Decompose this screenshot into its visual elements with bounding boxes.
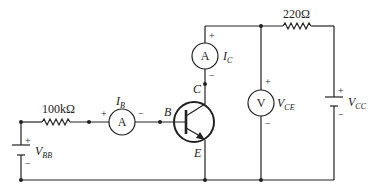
collector-resistor: 220Ω <box>283 7 312 29</box>
emitter-label: E <box>193 146 202 160</box>
ic-ammeter: A + − IC <box>192 30 233 81</box>
ib-label: IB <box>115 94 125 110</box>
ic-plus: + <box>209 30 215 41</box>
base-node-dot <box>158 120 162 124</box>
junction-dot <box>203 178 207 182</box>
collector-label: C <box>193 82 202 96</box>
vcc-plus: + <box>338 85 344 96</box>
ib-plus: + <box>101 108 107 119</box>
vbb-plus: + <box>25 135 31 146</box>
junction-dot <box>19 178 23 182</box>
ammeter-symbol: A <box>201 49 210 63</box>
junction-dot <box>259 24 263 28</box>
junction-dot <box>87 120 91 124</box>
vcc-battery: + − VCC <box>325 85 367 120</box>
vce-plus: + <box>265 76 271 87</box>
emitter-arrow-icon <box>196 132 205 140</box>
vce-minus: − <box>265 118 271 129</box>
vce-voltmeter: V + − VCE <box>248 76 295 129</box>
ic-label: IC <box>222 49 233 65</box>
base-resistor-value: 100kΩ <box>42 102 75 116</box>
junction-dot <box>19 120 23 124</box>
ammeter-symbol: A <box>118 115 127 129</box>
vbb-minus: − <box>25 158 31 169</box>
vcc-label: VCC <box>348 95 367 111</box>
collector-resistor-value: 220Ω <box>283 7 310 21</box>
vcc-minus: − <box>338 109 344 120</box>
vbb-battery: + − VBB <box>12 135 52 169</box>
base-resistor: 100kΩ <box>42 102 75 125</box>
voltmeter-symbol: V <box>257 96 266 110</box>
junction-dot <box>259 178 263 182</box>
ib-ammeter: A + − IB <box>101 94 144 135</box>
collector-node-dot <box>203 82 207 86</box>
ib-minus: − <box>138 108 144 119</box>
vce-label: VCE <box>277 96 295 112</box>
ic-minus: − <box>209 70 215 81</box>
base-label: B <box>164 105 172 119</box>
vbb-label: VBB <box>35 144 52 160</box>
circuit-diagram: 100kΩ 220Ω + − VBB + − VCC A + − IB A + … <box>0 0 369 193</box>
npn-transistor: B C E <box>164 82 214 160</box>
